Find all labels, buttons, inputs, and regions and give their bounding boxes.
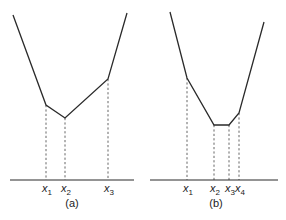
label-x1: x1 — [182, 182, 194, 197]
label-x4: x4 — [234, 182, 246, 197]
label-x3: x3 — [103, 182, 115, 197]
panel-b: x1x2x3x4(b) — [150, 12, 278, 209]
panel-caption: (b) — [209, 197, 222, 209]
diagram-canvas: x1x2x3(a) x1x2x3x4(b) — [0, 0, 286, 220]
label-x1: x1 — [41, 182, 53, 197]
label-x2: x2 — [60, 182, 72, 197]
panel-a: x1x2x3(a) — [10, 13, 134, 209]
label-x3: x3 — [224, 182, 236, 197]
piecewise-linear-curve — [13, 13, 127, 118]
panel-caption: (a) — [65, 197, 78, 209]
piecewise-linear-curve — [170, 12, 264, 125]
label-x2: x2 — [209, 182, 221, 197]
